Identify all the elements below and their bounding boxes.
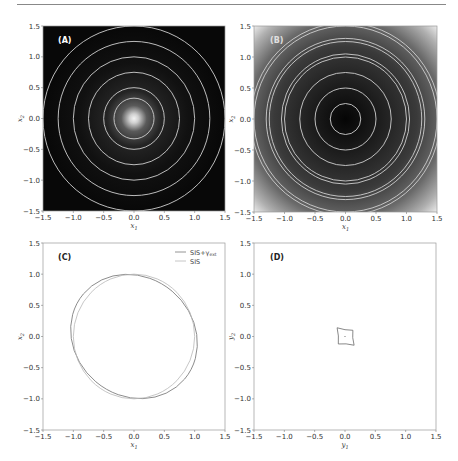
panel-label-c: (C): [58, 253, 71, 262]
x-tick-label: −0.5: [95, 214, 112, 222]
x-axis-label: y1: [340, 441, 348, 450]
y-tick-label: 1.0: [29, 271, 40, 279]
x-tick-label: 0.0: [128, 433, 139, 441]
source-marker: [344, 336, 345, 337]
y-tick-label: −1.5: [234, 427, 251, 435]
y-tick-label: −0.5: [234, 147, 251, 155]
y-tick-label: 0.5: [29, 302, 40, 310]
x-tick-label: 1.5: [219, 433, 230, 441]
x-tick-label: 0.5: [159, 433, 170, 441]
figure: −1.5−1.0−0.50.00.51.01.5−1.5−1.0−0.50.00…: [0, 0, 458, 461]
y-axis-label: y2: [227, 333, 236, 341]
x-tick-label: −1.0: [276, 433, 293, 441]
panel-c: −1.5−1.0−0.50.00.51.01.5−1.5−1.0−0.50.00…: [16, 240, 231, 450]
y-tick-label: −1.0: [234, 178, 251, 186]
y-tick-label: 1.5: [29, 240, 40, 248]
x-tick-label: −1.0: [65, 214, 82, 222]
panel-label-d: (D): [270, 253, 284, 262]
panel-b: −1.5−1.0−0.50.00.51.01.5−1.5−1.0−0.50.00…: [227, 23, 443, 232]
x-tick-label: −0.5: [306, 433, 323, 441]
y-tick-label: −0.5: [23, 364, 40, 372]
y-tick-label: 0.5: [29, 84, 40, 92]
panel-label-b: (B): [270, 36, 283, 45]
x-tick-label: 1.0: [189, 433, 200, 441]
y-tick-label: 0.0: [29, 333, 40, 341]
y-tick-label: 1.0: [240, 54, 251, 62]
x-axis-label: x1: [342, 223, 349, 232]
y-tick-label: 1.5: [29, 23, 40, 31]
x-tick-label: 1.5: [431, 215, 442, 223]
plot-background: [43, 26, 225, 211]
x-tick-label: 1.0: [189, 214, 200, 222]
x-tick-label: −1.0: [276, 215, 293, 223]
y-tick-label: −1.5: [23, 208, 40, 216]
x-tick-label: 0.0: [340, 215, 351, 223]
x-tick-label: 0.5: [159, 214, 170, 222]
x-tick-label: 0.0: [339, 433, 350, 441]
panel-a: −1.5−1.0−0.50.00.51.01.5−1.5−1.0−0.50.00…: [16, 23, 231, 231]
y-axis-label: x2: [16, 115, 25, 122]
y-axis-label: x2: [16, 333, 25, 340]
y-tick-label: 1.5: [240, 240, 251, 248]
x-tick-label: −1.0: [65, 433, 82, 441]
y-tick-label: 1.0: [29, 53, 40, 61]
y-tick-label: −0.5: [23, 146, 40, 154]
y-tick-label: −1.5: [23, 427, 40, 435]
plot-background: [43, 243, 225, 430]
y-axis-label: x2: [227, 115, 236, 122]
y-tick-label: −0.5: [234, 364, 251, 372]
y-tick-label: 1.5: [240, 23, 251, 31]
x-tick-label: 1.5: [430, 433, 441, 441]
x-tick-label: 0.5: [370, 433, 381, 441]
panel-label-a: (A): [58, 36, 72, 45]
x-tick-label: 0.5: [370, 215, 381, 223]
panel-d: −1.5−1.0−0.50.00.51.01.5−1.5−1.0−0.50.00…: [227, 240, 442, 450]
x-axis-label: x1: [130, 441, 137, 450]
x-tick-label: −0.5: [95, 433, 112, 441]
y-tick-label: 0.5: [240, 85, 251, 93]
y-tick-label: −1.5: [234, 209, 251, 217]
x-tick-label: 1.5: [219, 214, 230, 222]
y-tick-label: 1.0: [240, 271, 251, 279]
y-tick-label: 0.0: [29, 115, 40, 123]
x-axis-label: x1: [130, 222, 137, 231]
y-tick-label: 0.5: [240, 302, 251, 310]
y-tick-label: 0.0: [240, 333, 251, 341]
x-tick-label: 1.0: [400, 433, 411, 441]
y-tick-label: −1.0: [23, 395, 40, 403]
x-tick-label: 0.0: [128, 214, 139, 222]
y-tick-label: −1.0: [234, 395, 251, 403]
x-tick-label: −0.5: [307, 215, 324, 223]
x-tick-label: 1.0: [401, 215, 412, 223]
y-tick-label: 0.0: [240, 116, 251, 124]
legend-label-sis: SIS: [190, 258, 200, 266]
y-tick-label: −1.0: [23, 177, 40, 185]
